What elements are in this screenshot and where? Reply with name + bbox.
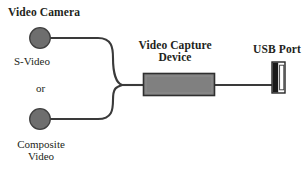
label-usb-port: USB Port — [249, 43, 305, 55]
composite-video-connector-icon — [30, 109, 51, 130]
label-composite-video: Composite Video — [5, 139, 77, 163]
video-capture-diagram: Video Camera S-Video or Composite Video … — [0, 0, 308, 180]
label-or: or — [36, 83, 45, 95]
label-video-camera: Video Camera — [8, 6, 80, 18]
label-video-capture-device: Video Capture Device — [133, 39, 217, 64]
label-s-video: S-Video — [14, 56, 50, 68]
composite-video-cable — [50, 85, 122, 119]
usb-port-icon — [272, 62, 285, 93]
video-capture-device-icon — [144, 74, 215, 96]
s-video-cable — [50, 38, 122, 85]
s-video-connector-icon — [30, 28, 51, 49]
